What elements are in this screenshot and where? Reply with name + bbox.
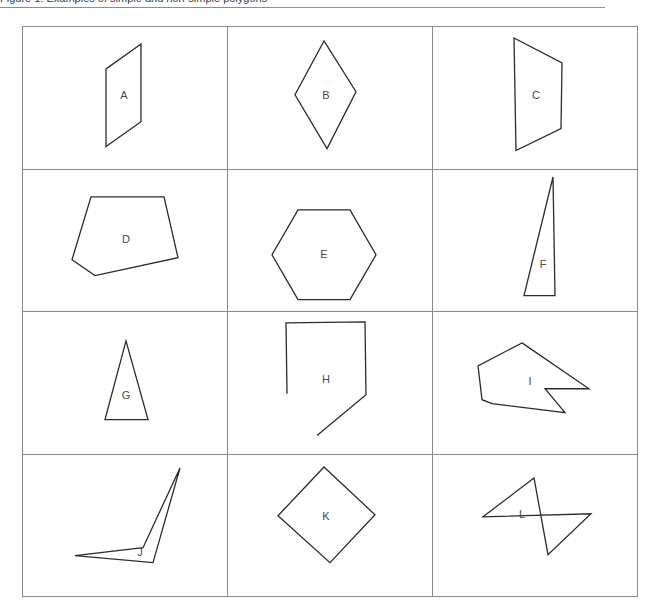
shape-svg-j: J (23, 455, 227, 597)
shape-label-i: I (528, 375, 531, 387)
shape-cell-d[interactable]: D (23, 169, 228, 312)
shape-canvas-b: B (228, 27, 432, 169)
shape-label-k: K (322, 509, 330, 521)
shape-cell-k[interactable]: K (228, 454, 433, 597)
shape-canvas-g: G (23, 312, 227, 454)
shape-svg-a: A (23, 27, 227, 169)
shape-cell-a[interactable]: A (23, 27, 228, 170)
shape-svg-i: I (433, 312, 637, 454)
shape-cell-h[interactable]: H (228, 312, 433, 455)
shape-svg-g: G (23, 312, 227, 454)
shape-outline-g (105, 341, 148, 420)
shape-svg-f: F (433, 170, 637, 312)
shape-canvas-c: C (433, 27, 637, 169)
shape-canvas-k: K (228, 455, 432, 597)
shape-canvas-d: D (23, 170, 227, 312)
table-row: G H I (23, 312, 638, 455)
shape-label-h: H (322, 373, 330, 385)
shape-grid-table: A B C (22, 26, 638, 597)
shape-cell-l[interactable]: L (433, 454, 638, 597)
table-row: J K L (23, 454, 638, 597)
shape-cell-e[interactable]: E (228, 169, 433, 312)
shape-label-j: J (137, 545, 142, 557)
shape-grid-body: A B C (23, 27, 638, 597)
shape-cell-b[interactable]: B (228, 27, 433, 170)
page-caption-text: Figure 1: Examples of simple and non-sim… (0, 0, 267, 4)
shape-cell-j[interactable]: J (23, 454, 228, 597)
shape-canvas-f: F (433, 170, 637, 312)
shape-label-l: L (519, 507, 525, 519)
shape-label-b: B (322, 89, 329, 101)
shape-cell-f[interactable]: F (433, 169, 638, 312)
shape-svg-h: H (228, 312, 432, 454)
shape-cell-g[interactable]: G (23, 312, 228, 455)
table-row: A B C (23, 27, 638, 170)
shape-svg-c: C (433, 27, 637, 169)
table-row: D E F (23, 169, 638, 312)
shape-canvas-a: A (23, 27, 227, 169)
page-header-rule (0, 7, 605, 8)
shape-svg-b: B (228, 27, 432, 169)
shape-cell-c[interactable]: C (433, 27, 638, 170)
shape-canvas-h: H (228, 312, 432, 454)
shape-svg-e: E (228, 170, 432, 312)
shape-cell-i[interactable]: I (433, 312, 638, 455)
shape-svg-l: L (433, 455, 637, 597)
shape-label-c: C (532, 89, 540, 101)
shape-label-a: A (120, 89, 128, 101)
shape-svg-d: D (23, 170, 227, 312)
shape-canvas-j: J (23, 455, 227, 597)
shape-outline-j (75, 467, 180, 562)
shape-label-f: F (540, 257, 547, 269)
shape-outline-i (478, 343, 589, 413)
shape-label-g: G (122, 389, 131, 401)
shape-canvas-l: L (433, 455, 637, 597)
shape-canvas-e: E (228, 170, 432, 312)
shape-outline-f (524, 176, 555, 295)
shape-outline-l (483, 477, 591, 554)
page-caption: Figure 1: Examples of simple and non-sim… (0, 0, 656, 5)
shape-label-e: E (320, 247, 327, 259)
shape-svg-k: K (228, 455, 432, 597)
shape-label-d: D (122, 232, 130, 244)
shape-canvas-i: I (433, 312, 637, 454)
